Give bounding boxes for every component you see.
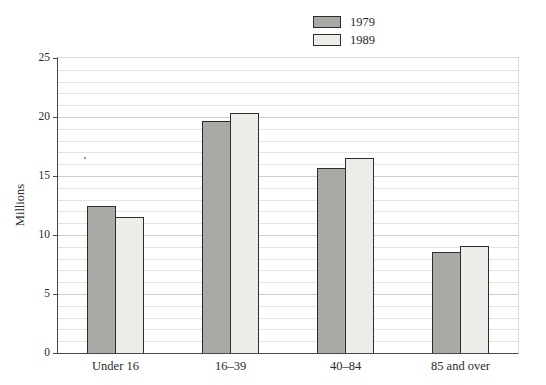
x-axis-label-16-39: 16–39 (171, 359, 291, 374)
legend-item-1979: 1979 (313, 13, 375, 31)
bar-1989-40-84 (345, 158, 374, 353)
gridline (58, 164, 518, 165)
gridline (58, 152, 518, 153)
y-axis-tick-label: 25 (12, 50, 50, 65)
y-axis-tick-label: 15 (12, 168, 50, 183)
y-axis-tick-label: 0 (12, 345, 50, 360)
y-axis-tick (53, 353, 58, 354)
plot-area: 0510152025Under 1616–3940–8485 and over (57, 57, 519, 354)
bar-1989-under-16 (115, 217, 144, 353)
legend: 1979 1989 (313, 13, 375, 49)
gridline (58, 82, 518, 83)
y-axis-tick (53, 58, 58, 59)
stray-mark-artifact (84, 157, 86, 159)
bar-1989-16-39 (230, 113, 259, 353)
gridline (58, 141, 518, 142)
gridline (58, 117, 518, 118)
gridline (58, 200, 518, 201)
legend-label-1989: 1989 (350, 34, 375, 47)
legend-item-1989: 1989 (313, 31, 375, 49)
y-axis-tick-label: 5 (12, 286, 50, 301)
x-axis-label-under-16: Under 16 (56, 359, 176, 374)
gridline (58, 129, 518, 130)
gridline (58, 93, 518, 94)
legend-swatch-1989 (313, 34, 341, 46)
gridline (58, 70, 518, 71)
gridline (58, 176, 518, 177)
gridline (58, 188, 518, 189)
bar-chart: 1979 1989 Millions 0510152025Under 1616–… (0, 0, 546, 385)
legend-label-1979: 1979 (350, 16, 375, 29)
bar-1979-under-16 (87, 206, 116, 354)
y-axis-tick-label: 10 (12, 227, 50, 242)
bar-1979-85-and-over (432, 252, 461, 353)
gridline (58, 105, 518, 106)
x-axis-label-85-and-over: 85 and over (401, 359, 521, 374)
legend-swatch-1979 (313, 16, 341, 28)
y-axis-tick-label: 20 (12, 109, 50, 124)
bar-1979-16-39 (202, 121, 231, 353)
gridline (58, 211, 518, 212)
bar-1989-85-and-over (460, 246, 489, 353)
bar-1979-40-84 (317, 168, 346, 353)
x-axis-label-40-84: 40–84 (286, 359, 406, 374)
